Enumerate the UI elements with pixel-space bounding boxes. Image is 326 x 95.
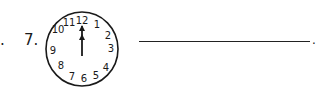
ending-period: . (312, 33, 316, 47)
clock-number-7: 7 (69, 71, 75, 82)
clock-number-3: 3 (108, 43, 114, 54)
question-number: 7. (24, 31, 38, 49)
clock-number-1: 1 (94, 19, 100, 30)
clock-number-4: 4 (103, 62, 109, 73)
clock-face: 12 1 2 3 4 5 6 7 8 9 10 11 (42, 8, 122, 88)
clock-number-8: 8 (58, 60, 64, 71)
answer-blank[interactable] (139, 41, 310, 42)
clock-number-9: 9 (50, 45, 56, 56)
clock-number-11: 11 (63, 17, 76, 28)
leading-period: . (0, 31, 5, 49)
clock-hands (79, 25, 85, 56)
clock-number-2: 2 (105, 30, 111, 41)
clock-number-6: 6 (81, 73, 87, 84)
hour-hand-arrow-icon (79, 34, 85, 40)
clock-number-5: 5 (93, 70, 99, 81)
clock-number-12: 12 (76, 15, 89, 26)
